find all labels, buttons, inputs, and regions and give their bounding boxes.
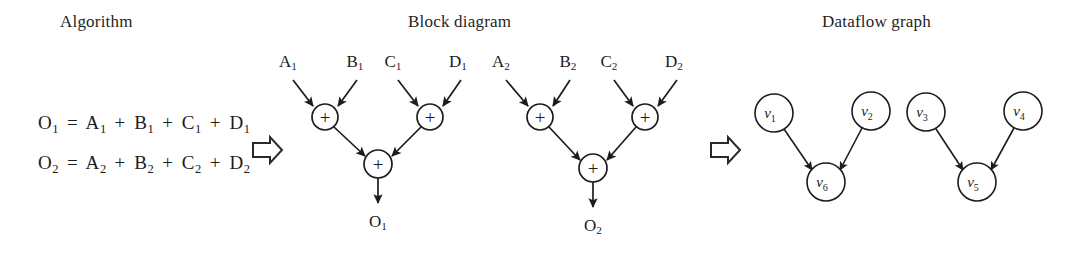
edge-a1-adder1: [293, 80, 313, 106]
edge-v1-v6: [784, 129, 812, 170]
adder-1-plus-icon: +: [320, 107, 331, 128]
adder-5-plus-icon: +: [640, 107, 651, 128]
edge-adder4-adder6: [549, 127, 580, 160]
adder-3-plus-icon: +: [373, 154, 384, 175]
edge-v4-v5: [991, 128, 1014, 170]
block-right-arrow-icon-2: [711, 137, 740, 163]
edge-d1-adder2: [443, 80, 461, 106]
figure-canvas: Algorithm Block diagram Dataflow graph O…: [0, 0, 1075, 259]
edge-c1-adder2: [398, 80, 418, 106]
edge-adder1-adder3: [334, 127, 365, 156]
edge-adder2-adder3: [392, 127, 421, 156]
edge-b2-adder4: [553, 80, 570, 106]
block-diagram-group-1: [293, 80, 461, 203]
diagram-vector-layer: + + + + + + v: [0, 0, 1075, 259]
adder-4-plus-icon: +: [535, 107, 546, 128]
edge-v3-v5: [936, 129, 963, 170]
edge-adder5-adder6: [607, 127, 636, 160]
edge-b1-adder1: [338, 80, 357, 106]
adder-2-plus-icon: +: [425, 107, 436, 128]
block-diagram-group-2: [506, 80, 677, 207]
edge-v2-v6: [840, 128, 862, 170]
block-right-arrow-icon-1: [253, 137, 282, 163]
edge-d2-adder5: [658, 80, 677, 106]
adder-6-plus-icon: +: [588, 158, 599, 179]
edge-c2-adder5: [614, 80, 633, 106]
edge-a2-adder4: [506, 80, 528, 106]
